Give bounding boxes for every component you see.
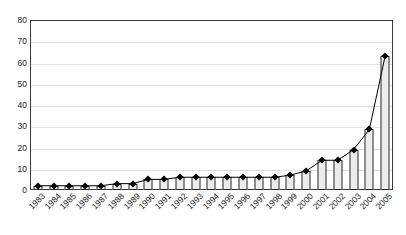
bar-slot <box>125 20 141 190</box>
bar-slot <box>330 20 346 190</box>
bar <box>333 160 342 190</box>
bar-slot <box>361 20 377 190</box>
bar-slot <box>46 20 62 190</box>
bar <box>317 160 326 190</box>
y-axis-tick-label: 0 <box>3 186 27 195</box>
bar-slot <box>267 20 283 190</box>
bar-slot <box>172 20 188 190</box>
series-layer <box>30 20 393 190</box>
bar-slot <box>77 20 93 190</box>
bar-slot <box>235 20 251 190</box>
chart-container: 01020304050607080 1983198419851986198719… <box>0 0 406 235</box>
bar-slot <box>377 20 393 190</box>
bar-slot <box>314 20 330 190</box>
bar-slot <box>204 20 220 190</box>
bar-slot <box>188 20 204 190</box>
y-axis-tick-label: 70 <box>3 37 27 46</box>
bar <box>365 129 374 190</box>
bar-slot <box>298 20 314 190</box>
bar-slot <box>283 20 299 190</box>
y-axis: 01020304050607080 <box>0 20 27 190</box>
y-axis-tick-label: 30 <box>3 122 27 131</box>
y-axis-tick-label: 10 <box>3 165 27 174</box>
bar-slot <box>62 20 78 190</box>
bar-slot <box>93 20 109 190</box>
bar-slot <box>30 20 46 190</box>
y-axis-tick-label: 60 <box>3 58 27 67</box>
bar-slot <box>156 20 172 190</box>
x-axis: 1983198419851986198719881989199019911992… <box>30 191 393 235</box>
y-axis-tick-label: 20 <box>3 143 27 152</box>
bar-slot <box>346 20 362 190</box>
bar-slot <box>251 20 267 190</box>
y-axis-tick-label: 80 <box>3 16 27 25</box>
bar-slot <box>140 20 156 190</box>
bar-slot <box>109 20 125 190</box>
y-axis-tick-label: 40 <box>3 101 27 110</box>
bar <box>381 56 390 190</box>
bar-slot <box>219 20 235 190</box>
y-axis-tick-label: 50 <box>3 80 27 89</box>
bar <box>349 150 358 190</box>
